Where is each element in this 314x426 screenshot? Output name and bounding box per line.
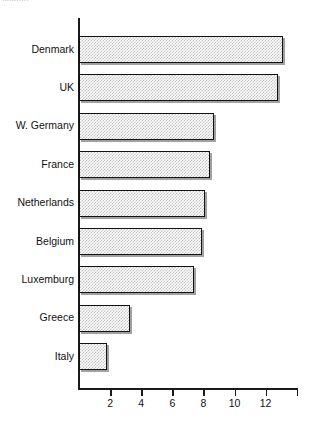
x-axis-tick-label: 8: [188, 397, 218, 409]
x-axis-tick: [110, 389, 112, 396]
x-axis-tick: [266, 389, 268, 396]
bar-category-label: W. Germany: [0, 119, 74, 131]
plot-area: DenmarkUKW. GermanyFranceNetherlandsBelg…: [0, 0, 314, 426]
bar: [79, 190, 205, 217]
bar-category-label: Denmark: [0, 43, 74, 55]
x-axis-tick: [172, 389, 174, 396]
bar: [79, 266, 194, 293]
bar-category-label: France: [0, 158, 74, 170]
x-axis-tick: [141, 389, 143, 396]
bar-category-label: Italy: [0, 350, 74, 362]
bar-row: Greece: [0, 305, 314, 332]
bar: [79, 36, 283, 63]
bar-row: Netherlands: [0, 190, 314, 217]
bar-row: Denmark: [0, 36, 314, 63]
bar-chart: ........... DenmarkUKW. GermanyFranceNet…: [0, 0, 314, 426]
bar-row: UK: [0, 74, 314, 101]
bar-category-label: Luxemburg: [0, 273, 74, 285]
x-axis-tick: [203, 389, 205, 396]
x-axis-tick-label: 10: [220, 397, 250, 409]
bar: [79, 305, 130, 332]
bar-category-label: Belgium: [0, 235, 74, 247]
bar: [79, 113, 214, 140]
x-axis-tick-label: 12: [251, 397, 281, 409]
bar-category-label: UK: [0, 81, 74, 93]
bar-row: Italy: [0, 343, 314, 370]
x-axis-tick: [235, 389, 237, 396]
x-axis-tick-label: 2: [95, 397, 125, 409]
bar-row: France: [0, 151, 314, 178]
x-axis-tick-label: 4: [126, 397, 156, 409]
x-axis-tick: [297, 389, 299, 396]
x-axis-tick-label: 6: [157, 397, 187, 409]
bar-category-label: Greece: [0, 311, 74, 323]
bar: [79, 151, 210, 178]
bar-row: Belgium: [0, 228, 314, 255]
bar-row: W. Germany: [0, 113, 314, 140]
bar-row: Luxemburg: [0, 266, 314, 293]
bar: [79, 74, 278, 101]
bar: [79, 228, 202, 255]
bar: [79, 343, 107, 370]
bar-category-label: Netherlands: [0, 196, 74, 208]
